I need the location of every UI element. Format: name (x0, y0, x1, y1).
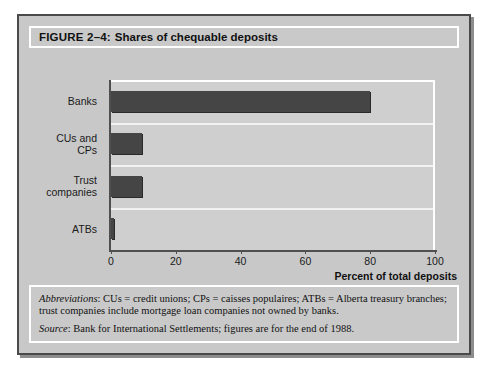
figure-number-label: FIGURE 2–4: (39, 31, 111, 43)
y-label-banks: Banks (25, 95, 97, 107)
x-axis-line (109, 250, 437, 252)
x-tick-mark (305, 250, 306, 254)
figure-panel: FIGURE 2–4: Shares of chequable deposits… (17, 14, 471, 355)
x-tick-mark (435, 250, 436, 254)
bar-cus-and-cps (111, 133, 142, 154)
figure-container: FIGURE 2–4: Shares of chequable deposits… (0, 0, 490, 373)
abbreviations-note: Abbreviations: CUs = credit unions; CPs … (39, 293, 449, 318)
x-tick-label: 20 (170, 255, 182, 267)
x-tick-mark (176, 250, 177, 254)
figure-notes: Abbreviations: CUs = credit unions; CPs … (29, 285, 459, 344)
gridline (111, 208, 433, 210)
x-tick-mark (111, 250, 112, 254)
x-tick-label: 40 (235, 255, 247, 267)
x-tick-label: 60 (300, 255, 312, 267)
source-text: : Bank for International Settlements; fi… (68, 323, 354, 334)
source-note: Source: Bank for International Settlemen… (39, 323, 449, 336)
x-tick-label: 0 (108, 255, 114, 267)
source-label: Source (39, 323, 68, 334)
y-label-atbs: ATBs (25, 223, 97, 235)
x-axis-title: Percent of total deposits (334, 270, 457, 282)
gridline (111, 165, 433, 167)
bar-atbs (111, 218, 114, 239)
abbreviations-label: Abbreviations (39, 293, 98, 304)
y-label-cus-and-cps: CUs andCPs (25, 132, 97, 156)
x-tick-mark (241, 250, 242, 254)
gridline (111, 123, 433, 125)
x-tick-mark (370, 250, 371, 254)
chart-region: BanksCUs andCPsTrustcompaniesATBs 020406… (29, 56, 459, 286)
figure-title-text: Shares of chequable deposits (115, 31, 278, 43)
y-axis-category-labels: BanksCUs andCPsTrustcompaniesATBs (29, 80, 101, 250)
x-tick-label: 100 (426, 255, 444, 267)
figure-title-bar: FIGURE 2–4: Shares of chequable deposits (29, 26, 459, 48)
x-tick-label: 80 (364, 255, 376, 267)
y-label-trust-companies: Trustcompanies (25, 174, 97, 198)
bar-banks (111, 91, 370, 112)
abbreviations-text: : CUs = credit unions; CPs = caisses pop… (39, 293, 447, 317)
bar-trust-companies (111, 176, 142, 197)
